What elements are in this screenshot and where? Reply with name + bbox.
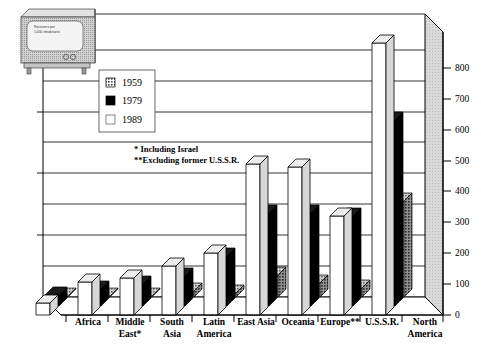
- y-tick-0: 0: [455, 310, 460, 320]
- bar-1989-north-america: [372, 35, 394, 315]
- bars-group: [36, 35, 412, 315]
- y-tick-100: 100: [455, 279, 470, 289]
- y-tick-500: 500: [455, 156, 470, 166]
- bar-group-europe: [288, 159, 328, 315]
- bar-1989-oceania: [246, 156, 268, 315]
- x-label-oceania: Oceania: [281, 317, 314, 327]
- annotation-israel: * Including Israel: [134, 144, 199, 154]
- bar-group-north-america: [372, 35, 412, 315]
- annotations: * Including Israel **Excluding former U.…: [134, 144, 239, 165]
- x-label-africa: Africa: [75, 317, 101, 327]
- legend-swatch-1979: [106, 96, 115, 105]
- x-label-north-america-2: America: [408, 329, 443, 339]
- legend-label-1989: 1989: [122, 114, 142, 125]
- x-label-north-america-1: North: [413, 317, 438, 327]
- annotation-ussr: **Excluding former U.S.S.R.: [134, 155, 239, 165]
- chart-container: 800 700 600 500 400 300 200 100 0: [0, 0, 488, 344]
- x-label-south-asia-1: South: [160, 317, 184, 327]
- legend: 1959 1979 1989: [99, 70, 155, 132]
- bar-group-oceania: [246, 156, 286, 315]
- legend-item-1959[interactable]: 1959: [106, 77, 142, 88]
- bar-1989-ussr: [330, 208, 352, 315]
- bar-1989-south-asia: [120, 270, 142, 315]
- bar-1989-east-asia: [204, 245, 226, 315]
- y-axis: 800 700 600 500 400 300 200 100 0: [425, 14, 470, 320]
- x-label-south-asia-2: Asia: [163, 329, 181, 339]
- bar-1989-europe: [288, 159, 310, 315]
- x-label-europe: Europe**: [320, 317, 360, 327]
- legend-item-1979[interactable]: 1979: [106, 95, 142, 106]
- x-label-ussr: U.S.S.R.: [365, 317, 399, 327]
- legend-swatch-1959: [106, 78, 115, 87]
- y-tick-600: 600: [455, 125, 470, 135]
- y-tick-800: 800: [455, 63, 470, 73]
- x-label-latin-america-2: America: [197, 329, 232, 339]
- x-label-east-asia: East Asia: [237, 317, 275, 327]
- bar-chart-svg: 800 700 600 500 400 300 200 100 0: [0, 0, 488, 344]
- y-tick-200: 200: [455, 248, 470, 258]
- x-label-middle-east-2: East*: [119, 329, 142, 339]
- y-tick-labels: 800 700 600 500 400 300 200 100 0: [455, 63, 470, 320]
- bar-1989-africa: [36, 295, 58, 315]
- tv-screen-line2: 1,000 inhabitants: [34, 30, 60, 34]
- tv-icon: Receivers per 1,000 inhabitants: [21, 9, 95, 74]
- x-tick-labels: Africa Middle East* South Asia Latin Ame…: [75, 317, 443, 339]
- bar-1989-latin-america: [162, 258, 184, 315]
- x-label-latin-america-1: Latin: [203, 317, 226, 327]
- legend-label-1959: 1959: [122, 77, 142, 88]
- tv-screen-line1: Receivers per: [34, 25, 56, 29]
- y-tick-300: 300: [455, 217, 470, 227]
- x-axis: Africa Middle East* South Asia Latin Ame…: [61, 315, 443, 339]
- legend-label-1979: 1979: [122, 95, 142, 106]
- legend-item-1989[interactable]: 1989: [106, 114, 142, 125]
- legend-swatch-1989: [106, 115, 115, 124]
- x-label-middle-east-1: Middle: [115, 317, 144, 327]
- y-tick-700: 700: [455, 94, 470, 104]
- y-tick-400: 400: [455, 186, 470, 196]
- bar-1989-middle-east: [78, 274, 100, 315]
